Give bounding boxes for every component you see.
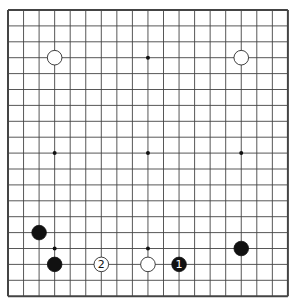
move-number: 2 [98,258,105,271]
star-point [239,151,243,155]
black-stone [234,241,249,256]
black-stone [47,257,62,272]
go-board: 21 [0,0,294,307]
white-stone [47,50,62,65]
black-stone [32,225,47,240]
white-stone [141,257,156,272]
star-point [146,56,150,60]
move-number: 1 [176,258,183,271]
star-point [146,247,150,251]
white-stone [234,50,249,65]
star-point [53,247,57,251]
star-point [146,151,150,155]
star-point [53,151,57,155]
